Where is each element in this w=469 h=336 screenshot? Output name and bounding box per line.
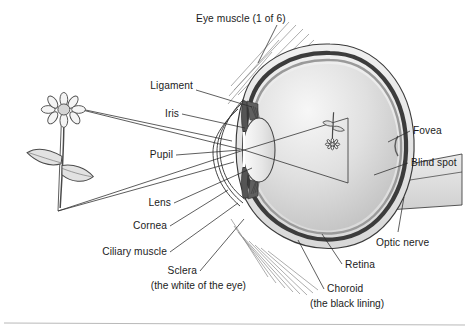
label-eye-muscle: Eye muscle (1 of 6) [196,13,286,24]
leader-sclera [200,219,244,271]
eye-anatomy-diagram: Eye muscle (1 of 6) Ligament Iris Pupil … [0,0,469,336]
label-ligament: Ligament [150,80,193,91]
label-optic-nerve: Optic nerve [376,237,429,248]
leader-ciliary-muscle [170,203,238,252]
label-sclera: Sclera [168,265,198,276]
label-iris: Iris [165,108,179,119]
lens-body [243,118,275,182]
label-fovea: Fovea [413,125,442,136]
footer-divider [4,323,465,325]
label-choroid-note: (the black lining) [310,298,384,309]
label-ciliary-muscle: Ciliary muscle [102,246,167,257]
label-pupil: Pupil [150,149,173,160]
label-retina: Retina [345,259,375,270]
eye-diagram-canvas: Eye muscle (1 of 6) Ligament Iris Pupil … [0,0,469,336]
leader-cornea [170,190,228,226]
label-lens: Lens [149,197,172,208]
label-cornea: Cornea [133,220,167,231]
leader-iris [182,114,245,128]
label-choroid: Choroid [327,283,364,294]
label-blind-spot: Blind spot [411,157,457,168]
label-sclera-note: (the white of the eye) [151,280,246,291]
